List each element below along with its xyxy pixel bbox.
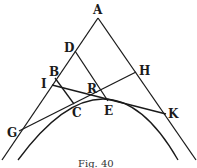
line-right-side: [98, 18, 196, 160]
label-B: B: [49, 65, 59, 79]
label-E: E: [104, 104, 113, 118]
line-BC: [55, 78, 74, 104]
parabola-curve: [18, 99, 178, 160]
label-R: R: [87, 82, 98, 96]
label-I: I: [41, 77, 47, 91]
label-K: K: [168, 107, 179, 121]
label-H: H: [139, 64, 150, 78]
label-C: C: [72, 106, 82, 120]
label-D: D: [64, 41, 74, 55]
label-A: A: [92, 3, 103, 17]
figure-caption: Fig. 40: [78, 158, 114, 168]
geometry-diagram: A D B I G C R E H K Fig. 40: [0, 0, 197, 168]
label-G: G: [7, 126, 17, 140]
